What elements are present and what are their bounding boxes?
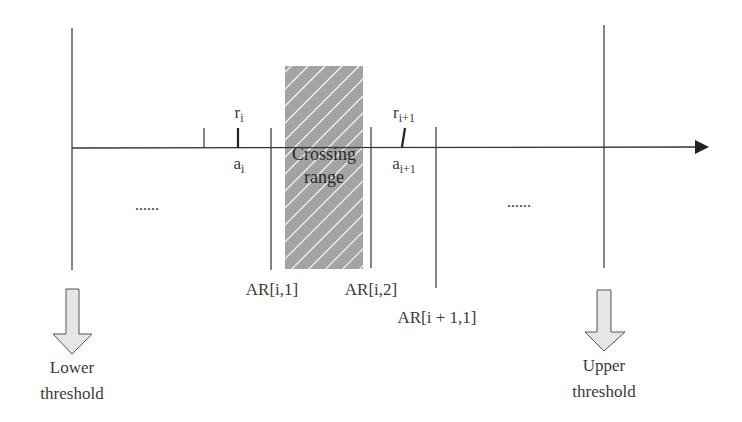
upper-threshold-arrow-icon — [585, 290, 625, 351]
label-ar-i-1: AR[i,1] — [246, 281, 298, 298]
tick-r-i1 — [402, 128, 405, 147]
label-a-i-sub: i — [241, 162, 244, 176]
label-a-i: ai — [234, 155, 245, 175]
lower-threshold-label-1: Lower — [50, 359, 94, 376]
upper-threshold-label-2: threshold — [572, 383, 635, 400]
label-r-i: ri — [234, 104, 243, 124]
label-r-i-sub: i — [240, 111, 243, 125]
label-a-i1: ai+1 — [392, 155, 416, 175]
crossing-range-label-2: range — [304, 168, 344, 186]
label-r-i1: ri+1 — [393, 104, 415, 124]
axis-arrowhead-icon — [695, 140, 709, 154]
ellipsis-left: ...... — [135, 196, 159, 214]
label-r-i1-sub: i+1 — [399, 111, 415, 125]
label-ar-i1-1: AR[i + 1,1] — [398, 309, 477, 326]
lower-threshold-arrow-icon — [53, 289, 92, 354]
lower-threshold-label-2: threshold — [40, 385, 103, 402]
ellipsis-right: ...... — [507, 193, 531, 211]
label-a-i1-base: a — [392, 154, 400, 173]
label-a-i1-sub: i+1 — [400, 162, 416, 176]
label-a-i-base: a — [234, 154, 242, 173]
label-ar-i-2: AR[i,2] — [345, 281, 397, 298]
crossing-range-label-1: Crossing — [292, 145, 356, 163]
diagram-canvas — [0, 0, 742, 422]
upper-threshold-label-1: Upper — [583, 357, 625, 374]
